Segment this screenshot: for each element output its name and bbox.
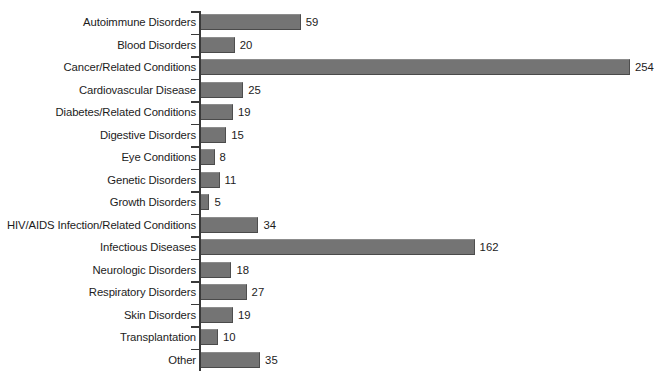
bar-group: 11 <box>201 172 236 188</box>
bar-group: 19 <box>201 307 251 323</box>
bar <box>201 352 260 368</box>
bar <box>201 82 243 98</box>
axis-tick <box>191 214 199 216</box>
bar-value-label: 19 <box>238 309 251 321</box>
category-label: Diabetes/Related Conditions <box>56 106 196 118</box>
horizontal-bar-chart: Autoimmune Disorders59Blood Disorders20C… <box>0 0 663 389</box>
category-label: Growth Disorders <box>110 196 196 208</box>
bar-group: 162 <box>201 239 498 255</box>
bar-row: Genetic Disorders11 <box>0 169 663 192</box>
bar-rows-container: Autoimmune Disorders59Blood Disorders20C… <box>0 11 663 371</box>
bar-row: Cardiovascular Disease25 <box>0 79 663 102</box>
bar <box>201 217 258 233</box>
bar <box>201 329 218 345</box>
bar-group: 59 <box>201 14 318 30</box>
axis-tick <box>191 259 199 261</box>
bar-value-label: 27 <box>252 286 265 298</box>
bar-group: 34 <box>201 217 276 233</box>
bar-row: Other35 <box>0 349 663 372</box>
bar <box>201 37 235 53</box>
bar-row: Skin Disorders19 <box>0 304 663 327</box>
bar-group: 10 <box>201 329 235 345</box>
axis-tick <box>191 101 199 103</box>
bar-value-label: 10 <box>223 331 236 343</box>
axis-tick <box>191 11 199 13</box>
bar-group: 25 <box>201 82 261 98</box>
axis-tick <box>191 169 199 171</box>
bar-row: Cancer/Related Conditions254 <box>0 56 663 79</box>
bar-row: HIV/AIDS Infection/Related Conditions34 <box>0 214 663 237</box>
bar <box>201 149 215 165</box>
bar-row: Transplantation10 <box>0 326 663 349</box>
bar-group: 8 <box>201 149 226 165</box>
bar-group: 27 <box>201 284 264 300</box>
bar-value-label: 8 <box>220 151 226 163</box>
bar <box>201 194 209 210</box>
category-label: Autoimmune Disorders <box>83 16 196 28</box>
bar-value-label: 20 <box>240 39 253 51</box>
bar <box>201 307 233 323</box>
bar-row: Digestive Disorders15 <box>0 124 663 147</box>
bar-row: Blood Disorders20 <box>0 34 663 57</box>
category-label: Infectious Diseases <box>100 241 196 253</box>
category-label: Skin Disorders <box>124 309 196 321</box>
bar-value-label: 25 <box>248 84 261 96</box>
bar-value-label: 59 <box>306 16 319 28</box>
bar <box>201 239 475 255</box>
category-label: Cardiovascular Disease <box>79 84 196 96</box>
bar-value-label: 162 <box>480 241 499 253</box>
bar-value-label: 15 <box>231 129 244 141</box>
bar-group: 19 <box>201 104 251 120</box>
bar <box>201 59 630 75</box>
bar-value-label: 35 <box>265 354 278 366</box>
category-label: Transplantation <box>120 331 196 343</box>
bar-value-label: 19 <box>238 106 251 118</box>
category-label: Neurologic Disorders <box>93 264 196 276</box>
bar-value-label: 34 <box>263 219 276 231</box>
category-label: HIV/AIDS Infection/Related Conditions <box>7 219 196 231</box>
axis-tick <box>191 304 199 306</box>
bar-row: Respiratory Disorders27 <box>0 281 663 304</box>
bar <box>201 172 220 188</box>
axis-tick <box>191 124 199 126</box>
bar-row: Growth Disorders5 <box>0 191 663 214</box>
axis-tick <box>191 326 199 328</box>
bar-value-label: 254 <box>635 61 654 73</box>
bar-row: Eye Conditions8 <box>0 146 663 169</box>
category-label: Blood Disorders <box>117 39 196 51</box>
bar <box>201 262 231 278</box>
bar <box>201 127 226 143</box>
axis-tick <box>191 281 199 283</box>
bar-group: 18 <box>201 262 249 278</box>
axis-tick <box>191 146 199 148</box>
axis-tick <box>191 236 199 238</box>
bar <box>201 14 301 30</box>
axis-tick <box>191 56 199 58</box>
bar <box>201 104 233 120</box>
bar-row: Diabetes/Related Conditions19 <box>0 101 663 124</box>
axis-tick <box>191 349 199 351</box>
category-label: Digestive Disorders <box>100 129 196 141</box>
category-label: Other <box>168 354 196 366</box>
bar-group: 254 <box>201 59 654 75</box>
bar-row: Infectious Diseases162 <box>0 236 663 259</box>
bar-value-label: 5 <box>214 196 220 208</box>
bar-group: 20 <box>201 37 252 53</box>
category-label: Eye Conditions <box>121 151 196 163</box>
bar-group: 35 <box>201 352 278 368</box>
axis-tick <box>191 34 199 36</box>
category-label: Genetic Disorders <box>107 174 196 186</box>
bar-row: Autoimmune Disorders59 <box>0 11 663 34</box>
bar-value-label: 11 <box>225 174 237 186</box>
bar-value-label: 18 <box>236 264 249 276</box>
bar <box>201 284 247 300</box>
axis-tick <box>191 191 199 193</box>
bar-group: 15 <box>201 127 244 143</box>
axis-tick <box>191 79 199 81</box>
category-label: Cancer/Related Conditions <box>63 61 196 73</box>
category-label: Respiratory Disorders <box>89 286 196 298</box>
bar-row: Neurologic Disorders18 <box>0 259 663 282</box>
bar-group: 5 <box>201 194 221 210</box>
